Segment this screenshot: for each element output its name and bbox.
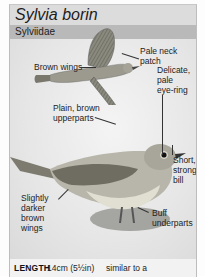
label-delicate-eye-ring: Delicate, pale eye-ring <box>157 65 190 95</box>
length-key: LENGTH <box>14 263 50 273</box>
label-line: pale <box>157 75 190 85</box>
leader-line <box>172 145 173 155</box>
label-line: Pale neck <box>140 46 177 56</box>
leader-line <box>80 67 96 68</box>
label-brown-wings: Brown wings <box>34 62 82 72</box>
label-plain-upperparts: Plain, brown upperparts <box>53 103 100 123</box>
label-darker-wings: Slightly darker brown wings <box>21 193 48 233</box>
length-value: 14cm (5½in) <box>47 263 94 273</box>
footer-info: LENGTH 14cm (5½in) similar to a <box>10 259 196 277</box>
label-line: Plain, brown <box>53 103 100 113</box>
label-line: Buff <box>152 208 193 218</box>
label-line: Brown wings <box>34 62 82 72</box>
label-buff-underparts: Buff underparts <box>152 208 193 228</box>
label-short-bill: Short, strong bill <box>173 155 197 185</box>
label-pale-neck-patch: Pale neck patch <box>140 46 177 66</box>
label-line: underparts <box>152 218 193 228</box>
label-line: darker <box>21 203 48 213</box>
label-line: Delicate, <box>157 65 190 75</box>
label-line: Slightly <box>21 193 48 203</box>
similar-text: similar to a <box>106 263 147 273</box>
leader-line <box>162 95 163 155</box>
label-line: strong <box>173 165 197 175</box>
label-line: eye-ring <box>157 85 190 95</box>
label-line: wings <box>21 223 48 233</box>
label-line: Short, <box>173 155 197 165</box>
species-card: Sylvia borin Sylviidae <box>9 4 197 277</box>
label-line: bill <box>173 175 197 185</box>
label-line: brown <box>21 213 48 223</box>
bird-photo-area: Pale neck patch Brown wings Delicate, pa… <box>10 39 196 259</box>
label-line: upperparts <box>53 113 100 123</box>
